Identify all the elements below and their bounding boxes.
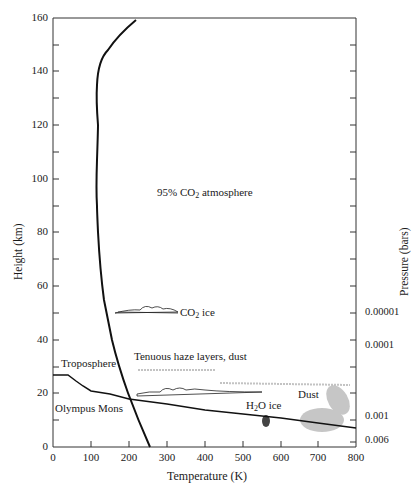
annotation-h2o-ice: H2O ice [246, 400, 281, 413]
y-tick-160: 160 [18, 12, 48, 23]
x-tick-300: 300 [152, 452, 182, 463]
p-tick-0.001: 0.001 [365, 411, 389, 422]
y-tick-100: 100 [18, 173, 48, 184]
y-tick-40: 40 [18, 334, 48, 345]
annotation-co2-ice: CO2 ice [180, 307, 215, 320]
y-tick-120: 120 [18, 119, 48, 130]
annotation-olympus-mons: Olympus Mons [55, 403, 123, 414]
x-tick-200: 200 [114, 452, 144, 463]
y-axis-title: Height (km) [12, 223, 24, 280]
x-tick-0: 0 [38, 452, 68, 463]
x-tick-700: 700 [303, 452, 333, 463]
x-tick-500: 500 [228, 452, 258, 463]
x-tick-800: 800 [341, 452, 371, 463]
x-ticks [91, 441, 318, 447]
y-ticks [53, 45, 59, 420]
haze-layer [138, 370, 350, 385]
y2-axis-title: Pressure (bars) [398, 227, 410, 296]
x-tick-400: 400 [190, 452, 220, 463]
annotation-atmosphere: 95% CO2 atmosphere [157, 187, 253, 200]
y-tick-60: 60 [18, 280, 48, 291]
y-tick-140: 140 [18, 65, 48, 76]
y-tick-0: 0 [18, 441, 48, 452]
x-axis-title: Temperature (K) [167, 470, 247, 482]
p-tick-0.006: 0.006 [365, 435, 389, 446]
annotation-dust: Dust [298, 389, 319, 400]
x-tick-100: 100 [76, 452, 106, 463]
annotation-haze: Tenuous haze layers, dust [134, 351, 247, 362]
annotation-troposphere: Troposphere [61, 358, 116, 369]
co2-ice-cloud [115, 306, 178, 313]
y-tick-20: 20 [18, 387, 48, 398]
y2-ticks [350, 45, 356, 442]
p-tick-0.0001: 0.0001 [365, 340, 394, 351]
x-tick-600: 600 [266, 452, 296, 463]
series-temperature-profile [97, 20, 151, 447]
h2o-cloud-layer [137, 388, 262, 396]
p-tick-0.00001: 0.00001 [365, 307, 399, 318]
